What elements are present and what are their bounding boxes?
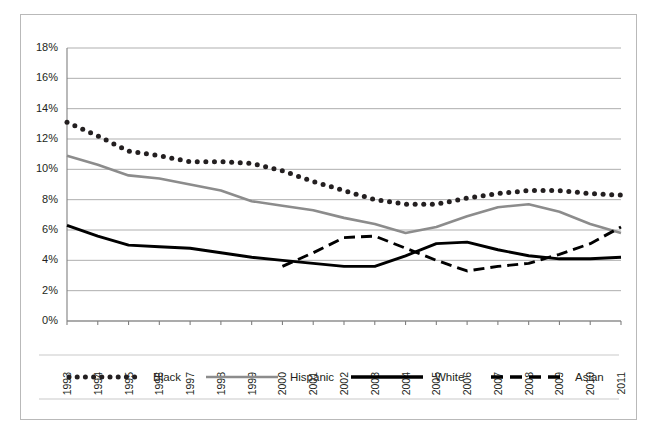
x-axis-tick-labels: 1993199419951996199719981999200020012002… [61,321,627,395]
legend-item-label: Black [153,371,181,383]
data-point-marker [238,160,243,165]
legend-swatch-dotted-icon [83,375,88,380]
data-point-marker [609,192,614,197]
data-point-marker [221,159,226,164]
data-point-marker [88,130,93,135]
y-axis-tick-labels: 0%2%4%6%8%10%12%14%16%18% [36,41,58,326]
y-axis-tick-label: 2% [42,284,58,296]
y-axis-tick-label: 14% [36,102,58,114]
legend-swatch-dotted-icon [132,375,137,380]
y-axis-tick-label: 10% [36,162,58,174]
data-point-marker [169,156,174,161]
data-point-marker [387,199,392,204]
data-point-marker [601,192,606,197]
data-point-marker [481,193,486,198]
data-point-marker [288,171,293,176]
data-point-marker [321,182,326,187]
legend-swatch-dotted-icon [75,375,80,380]
legend-swatch-dotted-icon [124,375,129,380]
data-point-marker [464,196,469,201]
data-point-marker [127,149,132,154]
data-point-marker [161,154,166,159]
x-axis-tick-label: 2011 [615,372,627,395]
y-axis-tick-label: 16% [36,71,58,83]
data-point-marker [255,162,260,167]
data-series-line [67,156,621,233]
data-point-marker [337,187,342,192]
axis-lines [67,48,621,321]
x-axis-tick-label: 1998 [215,372,227,396]
legend-swatch-dotted-icon [67,375,72,380]
data-point-marker [354,192,359,197]
data-point-marker [104,138,109,143]
data-point-marker [558,188,563,193]
data-point-marker [413,202,418,207]
y-axis-tick-label: 0% [42,314,58,326]
chart-figure-frame: 0%2%4%6%8%10%12%14%16%18% 19931994199519… [20,14,637,420]
data-point-marker [280,168,285,173]
data-point-marker [229,160,234,165]
data-point-marker [549,188,554,193]
x-axis-tick-label: 2002 [338,372,350,396]
data-point-marker [506,190,511,195]
legend-item-label: Asian [575,371,604,383]
data-point-marker [203,159,208,164]
x-axis-tick-label: 1993 [61,372,73,396]
data-point-marker [566,189,571,194]
data-point-marker [96,134,101,139]
legend-swatch-dotted-icon [116,375,121,380]
data-point-marker [186,159,191,164]
legend-swatch-dotted-icon [108,375,113,380]
gridlines-group [67,48,621,321]
data-series-group [65,120,623,271]
data-point-marker [575,190,580,195]
data-point-marker [111,141,116,146]
x-axis-tick-label: 1999 [246,372,258,396]
data-point-marker [263,164,268,169]
data-point-marker [212,159,217,164]
data-point-marker [152,153,157,158]
y-axis-tick-label: 8% [42,193,58,205]
data-point-marker [447,199,452,204]
y-axis-tick-label: 12% [36,132,58,144]
line-chart: 0%2%4%6%8%10%12%14%16%18% 19931994199519… [21,15,636,419]
data-point-marker [396,201,401,206]
y-axis-tick-label: 18% [36,41,58,53]
x-axis-tick-label: 2000 [276,372,288,396]
data-point-marker [421,202,426,207]
y-axis-tick-label: 6% [42,223,58,235]
data-point-marker [583,191,588,196]
data-point-marker [296,174,301,179]
data-point-marker [345,189,350,194]
data-point-marker [541,188,546,193]
data-point-marker [144,151,149,156]
data-point-marker [65,120,70,125]
data-point-marker [195,159,200,164]
data-point-marker [72,123,77,128]
data-point-marker [489,192,494,197]
data-point-marker [80,127,85,132]
data-point-marker [472,195,477,200]
data-point-marker [329,184,334,189]
data-point-marker [498,191,503,196]
data-point-marker [523,188,528,193]
data-point-marker [246,161,251,166]
legend-item-label: White [435,371,464,383]
data-point-marker [304,177,309,182]
data-point-marker [370,197,375,202]
data-point-marker [618,193,623,198]
data-point-marker [379,198,384,203]
data-point-marker [135,150,140,155]
data-point-marker [532,188,537,193]
data-point-marker [430,202,435,207]
data-point-marker [312,179,317,184]
legend-item-label: Hispanic [290,371,334,383]
data-point-marker [362,194,367,199]
y-axis-tick-label: 4% [42,253,58,265]
data-point-marker [271,166,276,171]
data-point-marker [515,189,520,194]
legend-swatch-dotted-icon [99,375,104,380]
data-point-marker [455,197,460,202]
data-point-marker [438,201,443,206]
data-point-marker [404,202,409,207]
